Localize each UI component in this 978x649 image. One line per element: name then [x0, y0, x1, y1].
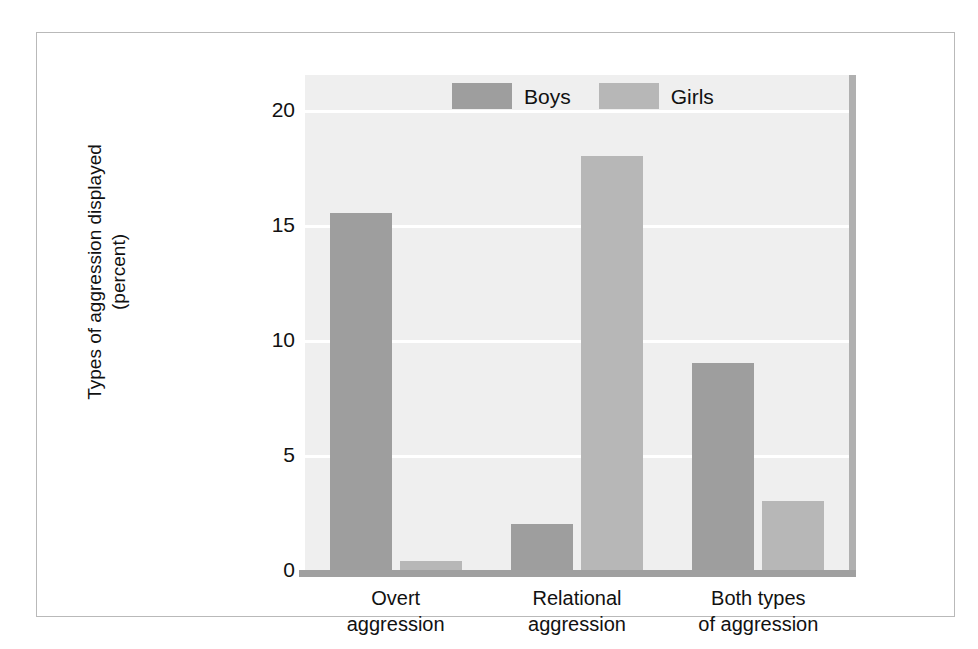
legend-item-girls: Girls: [599, 83, 714, 109]
x-axis-category-line: aggression: [486, 611, 667, 637]
y-axis-ticks: 05101520: [227, 75, 295, 570]
legend-swatch-girls-icon: [599, 83, 659, 109]
y-axis-tick-label: 10: [237, 329, 295, 350]
x-axis-category-label: Relationalaggression: [486, 585, 667, 637]
y-axis-tick-label: 5: [237, 444, 295, 465]
bar-girls-0: [400, 561, 462, 570]
x-axis-category-label: Both typesof aggression: [668, 585, 849, 637]
plot-area-shadow: [849, 75, 856, 570]
gridline: [305, 110, 849, 113]
y-axis-tick-label: 20: [237, 99, 295, 120]
y-axis-title-line-2: (percent): [108, 234, 129, 310]
y-axis-tick-label: 0: [237, 559, 295, 580]
bar-girls-2: [762, 501, 824, 570]
chart-legend: Boys Girls: [452, 83, 714, 109]
x-axis-category-line: Both types: [668, 585, 849, 611]
figure-frame: 05101520 Types of aggression displayed (…: [36, 32, 955, 617]
x-axis-category-line: aggression: [305, 611, 486, 637]
bar-boys-0: [330, 213, 392, 570]
x-axis-category-line: Overt: [305, 585, 486, 611]
bar-boys-2: [692, 363, 754, 570]
legend-label-boys: Boys: [524, 86, 571, 107]
y-axis-title-line-1: Types of aggression displayed: [84, 144, 105, 400]
x-axis-category-label: Overtaggression: [305, 585, 486, 637]
bar-girls-1: [581, 156, 643, 570]
bar-boys-1: [511, 524, 573, 570]
x-axis-category-line: of aggression: [668, 611, 849, 637]
x-axis-baseline: [299, 570, 856, 577]
legend-swatch-boys-icon: [452, 83, 512, 109]
y-axis-tick-label: 15: [237, 214, 295, 235]
x-axis-category-line: Relational: [486, 585, 667, 611]
legend-item-boys: Boys: [452, 83, 571, 109]
legend-label-girls: Girls: [671, 86, 714, 107]
y-axis-title: Types of aggression displayed (percent): [83, 107, 131, 437]
